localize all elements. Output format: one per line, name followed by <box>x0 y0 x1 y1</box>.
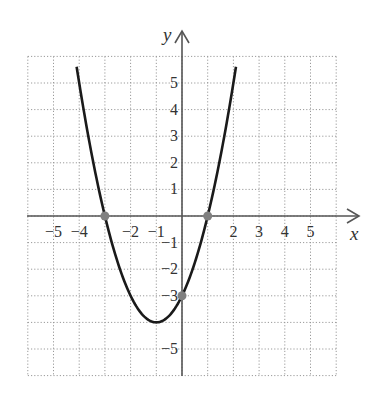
x-tick-label: 2 <box>229 223 237 240</box>
y-tick-label: 3 <box>170 127 178 144</box>
x-tick-label: 4 <box>281 223 289 240</box>
x-tick-label: −2 <box>122 223 139 240</box>
y-tick-label: −5 <box>161 340 178 357</box>
y-tick-label: 4 <box>170 101 178 118</box>
x-axis-label: x <box>349 223 359 244</box>
y-axis-label: y <box>161 24 172 45</box>
y-intercept-point <box>178 291 187 300</box>
parabola-chart: x y −5−4−2−12345 54321−1−2−3−5 <box>0 0 377 397</box>
x-tick-labels: −5−4−2−12345 <box>45 223 315 240</box>
axes: x y <box>27 24 359 376</box>
y-tick-label: −1 <box>161 234 178 251</box>
x-tick-label: 5 <box>307 223 315 240</box>
x-intercept-point <box>203 212 212 221</box>
x-tick-label: −4 <box>71 223 88 240</box>
y-tick-label: 1 <box>170 180 178 197</box>
x-tick-label: −5 <box>45 223 62 240</box>
y-tick-label: 5 <box>170 74 178 91</box>
x-tick-label: 3 <box>255 223 263 240</box>
x-intercept-point <box>100 212 109 221</box>
y-tick-label: −2 <box>161 260 178 277</box>
y-tick-label: −3 <box>161 287 178 304</box>
y-tick-label: 2 <box>170 154 178 171</box>
